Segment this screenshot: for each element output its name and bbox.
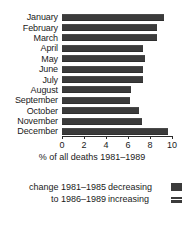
legend-entry-label: decreasing bbox=[108, 181, 152, 193]
x-tick-label: 0 bbox=[59, 140, 64, 150]
bar-track bbox=[62, 95, 178, 105]
bar-november bbox=[62, 118, 142, 125]
category-label-september: September bbox=[0, 95, 58, 105]
category-label-july: July bbox=[0, 75, 58, 85]
bar-april bbox=[62, 45, 143, 52]
category-label-november: November bbox=[0, 116, 58, 126]
bar-track bbox=[62, 22, 178, 32]
bar-track bbox=[62, 116, 178, 126]
bar-row: July bbox=[0, 74, 184, 84]
x-tick-label: 8 bbox=[147, 140, 152, 150]
x-tick bbox=[106, 136, 107, 139]
bar-track bbox=[62, 33, 178, 43]
legend-caption-line-1: change 1981–1985 bbox=[6, 181, 106, 193]
x-axis-title: % of all deaths 1981–1989 bbox=[0, 152, 184, 163]
bar-track bbox=[62, 43, 178, 53]
bar-september bbox=[62, 97, 130, 104]
legend-caption: change 1981–1985 to 1986–1989 bbox=[6, 181, 106, 205]
bar-chart: JanuaryFebruaryMarchAprilMayJuneJulyAugu… bbox=[0, 0, 184, 226]
bar-track bbox=[62, 85, 178, 95]
category-label-october: October bbox=[0, 106, 58, 116]
bar-row: February bbox=[0, 22, 184, 32]
bar-row: October bbox=[0, 106, 184, 116]
bar-row: April bbox=[0, 43, 184, 53]
legend-swatch-icon-increasing bbox=[171, 195, 182, 203]
category-label-january: January bbox=[0, 12, 58, 22]
category-label-april: April bbox=[0, 43, 58, 53]
bar-row: September bbox=[0, 95, 184, 105]
x-tick-label: 10 bbox=[167, 140, 177, 150]
x-tick bbox=[84, 136, 85, 139]
bar-track bbox=[62, 12, 178, 22]
x-tick-label: 2 bbox=[81, 140, 86, 150]
legend-entry-decreasing: decreasing bbox=[108, 181, 184, 193]
x-tick bbox=[128, 136, 129, 139]
legend-entry-label: increasing bbox=[108, 193, 149, 205]
plot-area: JanuaryFebruaryMarchAprilMayJuneJulyAugu… bbox=[0, 0, 184, 140]
legend-caption-line-2: to 1986–1989 bbox=[6, 193, 106, 205]
category-label-february: February bbox=[0, 23, 58, 33]
legend-entries: decreasingincreasing bbox=[108, 181, 184, 205]
category-label-may: May bbox=[0, 54, 58, 64]
bar-rows: JanuaryFebruaryMarchAprilMayJuneJulyAugu… bbox=[0, 12, 184, 137]
legend: change 1981–1985 to 1986–1989 decreasing… bbox=[0, 181, 184, 211]
x-tick bbox=[150, 136, 151, 139]
bar-february bbox=[62, 24, 157, 31]
x-axis: 0246810 bbox=[62, 136, 172, 137]
bar-january bbox=[62, 14, 164, 21]
bar-august bbox=[62, 86, 131, 93]
category-label-march: March bbox=[0, 33, 58, 43]
bar-december bbox=[62, 128, 168, 135]
category-label-june: June bbox=[0, 64, 58, 74]
bar-track bbox=[62, 54, 178, 64]
category-label-december: December bbox=[0, 126, 58, 136]
x-tick bbox=[62, 136, 63, 139]
bar-row: November bbox=[0, 116, 184, 126]
bar-row: May bbox=[0, 54, 184, 64]
bar-october bbox=[62, 107, 139, 114]
bar-track bbox=[62, 74, 178, 84]
bar-row: August bbox=[0, 85, 184, 95]
category-label-august: August bbox=[0, 85, 58, 95]
bar-march bbox=[62, 34, 157, 41]
bar-row: June bbox=[0, 64, 184, 74]
x-tick bbox=[172, 136, 173, 139]
bar-row: March bbox=[0, 33, 184, 43]
bar-row: January bbox=[0, 12, 184, 22]
bar-july bbox=[62, 76, 143, 83]
x-tick-label: 4 bbox=[103, 140, 108, 150]
bar-june bbox=[62, 66, 143, 73]
bar-may bbox=[62, 55, 145, 62]
bar-track bbox=[62, 106, 178, 116]
x-tick-label: 6 bbox=[125, 140, 130, 150]
legend-swatch-icon-decreasing bbox=[171, 183, 182, 191]
legend-entry-increasing: increasing bbox=[108, 193, 184, 205]
bar-track bbox=[62, 64, 178, 74]
